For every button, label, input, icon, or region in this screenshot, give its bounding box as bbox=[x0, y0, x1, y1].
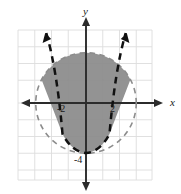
coordinate-plane bbox=[0, 0, 181, 194]
x-axis-label: x bbox=[170, 97, 175, 108]
y-axis-label: y bbox=[83, 6, 88, 17]
x-tick-label-negative-two: -2 bbox=[57, 104, 65, 114]
graph-figure: y x -2 2 -4 bbox=[0, 0, 181, 194]
y-tick-label-negative-four: -4 bbox=[74, 155, 82, 165]
x-tick-label-positive-two: 2 bbox=[110, 104, 115, 114]
